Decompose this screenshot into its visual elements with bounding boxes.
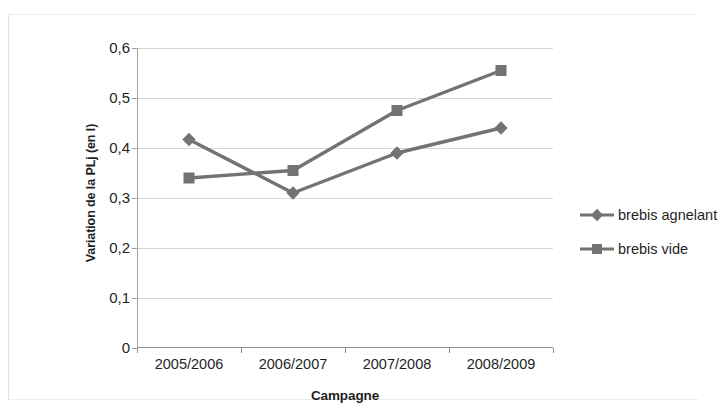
data-point-marker <box>286 186 299 199</box>
data-point-marker <box>390 146 403 159</box>
chart-legend: brebis agnelantbrebis vide <box>578 198 722 266</box>
y-axis-tick-label: 0,4 <box>84 140 130 155</box>
y-axis-tick-label: 0,2 <box>84 240 130 255</box>
x-axis-tick-label: 2005/2006 <box>137 357 241 372</box>
y-axis-tick-label: 0,5 <box>84 90 130 105</box>
line-chart: Variation de la PLj (en l) 0,60,50,40,30… <box>40 16 722 414</box>
series-line <box>189 128 501 193</box>
data-point-marker <box>182 133 195 146</box>
x-axis-tick <box>449 348 450 353</box>
x-axis-tick-labels: 2005/20062006/20072007/20082008/2009 <box>137 357 553 379</box>
y-axis-tick-label: 0,3 <box>84 190 130 205</box>
y-axis-tick-label: 0,1 <box>84 290 130 305</box>
x-axis-tick <box>345 348 346 353</box>
x-axis-tick-label: 2008/2009 <box>449 357 553 372</box>
x-axis-tick <box>553 348 554 353</box>
data-point-marker <box>288 165 299 176</box>
x-axis-title: Campagne <box>137 388 553 403</box>
x-axis-tick <box>137 348 138 353</box>
series-2 <box>184 65 507 184</box>
legend-diamond-marker-icon <box>578 206 616 224</box>
data-point-marker <box>494 121 507 134</box>
series-plot <box>137 48 553 348</box>
plot-area <box>137 48 553 348</box>
legend-entry-1[interactable]: brebis agnelant <box>578 198 722 232</box>
data-point-marker <box>496 65 507 76</box>
legend-entry-2[interactable]: brebis vide <box>578 232 722 266</box>
y-axis-tick-label: 0 <box>84 340 130 355</box>
legend-label: brebis vide <box>616 241 688 257</box>
x-axis-tick-label: 2007/2008 <box>345 357 449 372</box>
legend-label: brebis agnelant <box>616 207 717 223</box>
y-axis-tick-labels: 0,60,50,40,30,20,10 <box>80 16 130 414</box>
data-point-marker <box>184 173 195 184</box>
legend-square-marker-icon <box>578 240 616 258</box>
y-axis-tick-label: 0,6 <box>84 40 130 55</box>
series-1 <box>182 121 507 199</box>
x-axis-tick-label: 2006/2007 <box>241 357 345 372</box>
x-axis-tick <box>241 348 242 353</box>
data-point-marker <box>392 105 403 116</box>
